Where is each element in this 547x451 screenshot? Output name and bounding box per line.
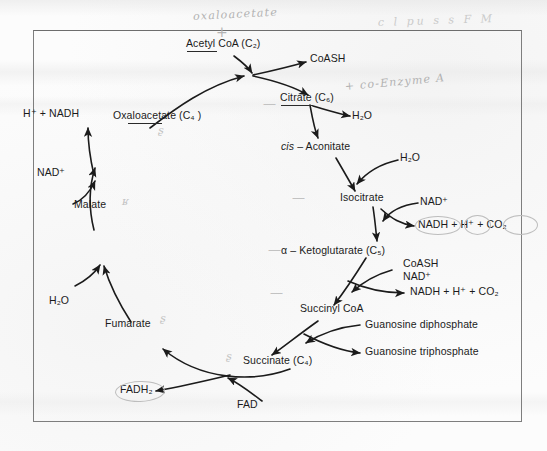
product-h-plus: H⁺ bbox=[460, 218, 474, 230]
plus-2: + bbox=[477, 218, 483, 230]
label-malate: Malate bbox=[74, 199, 106, 211]
arrow-to-h-nadh bbox=[88, 128, 94, 175]
oxaloacetate-underline bbox=[128, 123, 162, 124]
arrow-aconitate-to-isocitrate bbox=[336, 158, 355, 191]
label-products-ketoglutarate: NADH + H⁺ + CO₂ bbox=[410, 286, 499, 298]
label-h2o-fumarate: H₂O bbox=[49, 295, 69, 307]
arrow-nad-into-isocitrate bbox=[383, 203, 418, 221]
pencil-tick-succinate: ʂ bbox=[226, 350, 232, 363]
product-co2: CO₂ bbox=[487, 218, 507, 230]
label-fumarate: Fumarate bbox=[105, 318, 151, 330]
label-citrate: Citrate (C₆) bbox=[280, 92, 334, 104]
label-succinyl-coa: Succinyl CoA bbox=[300, 303, 364, 315]
arrow-h2o-into-isocitrate bbox=[357, 160, 398, 184]
annotation-plus-sign-handwritten: + bbox=[216, 24, 229, 40]
label-cis-aconitate: cis – Aconitate bbox=[281, 141, 350, 153]
pencil-tick-oxaloacetate: ʂ bbox=[158, 124, 164, 137]
plus-1: + bbox=[451, 218, 457, 230]
label-coash-kg: CoASH bbox=[403, 258, 439, 270]
label-products-isocitrate: NADH + H⁺ + CO₂ bbox=[418, 219, 507, 231]
label-alpha-ketoglutarate: α – Ketoglutarate (C₅) bbox=[281, 245, 385, 257]
pencil-underline-citrate: — bbox=[263, 96, 276, 111]
label-h-nadh-malate: H⁺ + NADH bbox=[23, 108, 79, 120]
arrow-h2o-into-malate bbox=[75, 265, 100, 286]
arrow-acetylcoa-in bbox=[234, 56, 252, 73]
arrow-citrate-h2o-out bbox=[313, 106, 350, 116]
label-gdp: Guanosine diphosphate bbox=[365, 319, 478, 331]
label-isocitrate: Isocitrate bbox=[340, 192, 384, 204]
citrate-underline bbox=[281, 105, 313, 106]
pencil-tick-fumarate: ʂ bbox=[160, 312, 166, 325]
arrow-fumarate-to-malate bbox=[104, 266, 131, 322]
arrow-to-fadh2 bbox=[156, 375, 230, 391]
arrow-to-nadh-products-2 bbox=[348, 281, 404, 293]
arrow-to-coash-top bbox=[253, 62, 306, 75]
label-gtp: Guanosine triphosphate bbox=[365, 346, 479, 358]
arrow-citrate-to-aconitate bbox=[310, 105, 318, 138]
label-nad-plus-isocitrate: NAD⁺ bbox=[420, 196, 449, 208]
label-coash-top: CoASH bbox=[310, 53, 346, 65]
acetyl-coa-underline bbox=[187, 51, 217, 52]
label-oxaloacetate: Oxaloacetate (C₄ ) bbox=[113, 110, 201, 122]
arrow-gdp-in bbox=[306, 325, 360, 343]
label-h2o-citrate: H₂O bbox=[352, 110, 372, 122]
label-fadh2: FADH₂ bbox=[120, 384, 153, 396]
product-nadh: NADH bbox=[418, 218, 448, 230]
arrow-to-gtp bbox=[304, 334, 360, 353]
label-nad-plus-malate: NAD⁺ bbox=[37, 167, 66, 179]
label-nad-plus-kg: NAD⁺ bbox=[403, 271, 432, 283]
arrow-isocitrate-to-ketoglutarate bbox=[373, 207, 377, 241]
label-succinate: Succinate (C₄) bbox=[243, 355, 312, 367]
diagram-page: Acetyl CoA (C₂) CoASH Citrate (C₆) H₂O c… bbox=[0, 0, 547, 451]
pencil-tick-ketoglutarate: — bbox=[268, 242, 281, 257]
pencil-tick-succinylcoa: — bbox=[270, 285, 283, 300]
label-h2o-aconitate: H₂O bbox=[400, 152, 420, 164]
pencil-tick-malate: ʁ bbox=[122, 195, 128, 208]
pencil-tick-isocitrate: — bbox=[292, 190, 305, 205]
label-fad: FAD bbox=[237, 399, 258, 411]
